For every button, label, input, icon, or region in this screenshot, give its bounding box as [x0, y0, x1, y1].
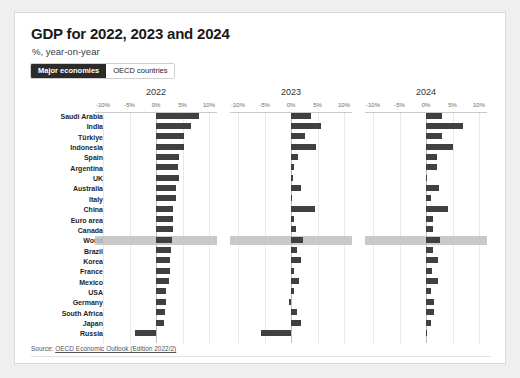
- bar[interactable]: [291, 144, 316, 150]
- footer-divider: [31, 356, 491, 357]
- bar[interactable]: [291, 164, 294, 170]
- bar[interactable]: [156, 257, 170, 263]
- x-tick-label: 10%: [473, 102, 485, 108]
- bar[interactable]: [289, 299, 291, 305]
- panel-title-2023: 2023: [281, 87, 301, 97]
- category-label: UK: [15, 175, 103, 183]
- bar[interactable]: [426, 226, 433, 232]
- bar[interactable]: [291, 113, 311, 119]
- category-label: Euro area: [15, 217, 103, 225]
- bar[interactable]: [426, 278, 438, 284]
- bar[interactable]: [291, 278, 299, 284]
- x-tick-label: 0%: [152, 102, 161, 108]
- category-label: Mexico: [15, 279, 103, 287]
- bar[interactable]: [426, 164, 437, 170]
- bar[interactable]: [426, 133, 442, 139]
- gridline: [344, 113, 345, 343]
- gridline: [238, 113, 239, 343]
- bar[interactable]: [426, 237, 440, 243]
- bar[interactable]: [426, 216, 433, 222]
- bar[interactable]: [156, 320, 164, 326]
- bar[interactable]: [156, 113, 199, 119]
- bar[interactable]: [426, 299, 434, 305]
- bar[interactable]: [156, 247, 171, 253]
- source-link[interactable]: OECD Economic Outlook (Edition 2022/2): [55, 345, 176, 352]
- bar[interactable]: [156, 299, 166, 305]
- bar[interactable]: [426, 113, 442, 119]
- bar[interactable]: [156, 288, 166, 294]
- bar[interactable]: [156, 195, 176, 201]
- bar[interactable]: [156, 206, 173, 212]
- bar[interactable]: [291, 175, 293, 181]
- bar[interactable]: [291, 133, 305, 139]
- bar[interactable]: [426, 175, 427, 181]
- bar[interactable]: [156, 185, 176, 191]
- gridline: [318, 113, 319, 343]
- x-tick-label: 0%: [287, 102, 296, 108]
- bar[interactable]: [291, 154, 298, 160]
- bar[interactable]: [291, 268, 294, 274]
- bar[interactable]: [426, 195, 431, 201]
- x-tick-label: 5%: [448, 102, 457, 108]
- category-label: Korea: [15, 258, 103, 266]
- bar[interactable]: [291, 237, 303, 243]
- bar[interactable]: [156, 133, 184, 139]
- x-tick-label: -10%: [96, 102, 110, 108]
- bar[interactable]: [291, 123, 321, 129]
- bar[interactable]: [426, 288, 431, 294]
- bar[interactable]: [156, 278, 169, 284]
- category-label: South Africa: [15, 310, 103, 318]
- x-tick-label: -10%: [231, 102, 245, 108]
- bar[interactable]: [291, 185, 301, 191]
- bar[interactable]: [426, 247, 433, 253]
- category-label: China: [15, 206, 103, 214]
- x-tick-label: -5%: [394, 102, 405, 108]
- bar[interactable]: [426, 123, 463, 129]
- bar[interactable]: [261, 330, 291, 336]
- bar[interactable]: [426, 206, 448, 212]
- bar[interactable]: [291, 195, 292, 201]
- bar[interactable]: [156, 164, 178, 170]
- category-label: France: [15, 268, 103, 276]
- bar[interactable]: [156, 237, 172, 243]
- bar[interactable]: [426, 320, 431, 326]
- panel-title-2022: 2022: [146, 87, 166, 97]
- bar[interactable]: [156, 216, 173, 222]
- bar[interactable]: [156, 268, 170, 274]
- bar[interactable]: [291, 216, 294, 222]
- bar[interactable]: [291, 247, 297, 253]
- bar[interactable]: [426, 330, 427, 336]
- category-label: Saudi Arabia: [15, 113, 103, 121]
- bar[interactable]: [426, 144, 453, 150]
- bar[interactable]: [291, 288, 294, 294]
- bar[interactable]: [426, 268, 432, 274]
- bar[interactable]: [426, 309, 434, 315]
- gridline: [130, 113, 131, 343]
- bar[interactable]: [156, 309, 165, 315]
- category-label: Türkiye: [15, 134, 103, 142]
- gridline: [400, 113, 401, 343]
- gridline: [103, 113, 104, 343]
- bar[interactable]: [156, 226, 173, 232]
- bar[interactable]: [291, 226, 296, 232]
- category-label: Germany: [15, 299, 103, 307]
- bar[interactable]: [156, 123, 191, 129]
- bar[interactable]: [291, 320, 301, 326]
- x-tick-label: 5%: [313, 102, 322, 108]
- bar[interactable]: [156, 154, 179, 160]
- bar[interactable]: [426, 185, 439, 191]
- x-tick-label: 5%: [178, 102, 187, 108]
- bar[interactable]: [135, 330, 156, 336]
- bar[interactable]: [291, 206, 315, 212]
- bar[interactable]: [156, 144, 184, 150]
- bar[interactable]: [426, 154, 437, 160]
- gridline: [209, 113, 210, 343]
- bar[interactable]: [291, 257, 301, 263]
- gridline: [479, 113, 480, 343]
- bar[interactable]: [156, 175, 179, 181]
- category-label: Japan: [15, 320, 103, 328]
- bar[interactable]: [291, 309, 297, 315]
- category-label: USA: [15, 289, 103, 297]
- chart-plot-area: Saudi ArabiaIndiaTürkiyeIndonesiaSpainAr…: [15, 13, 507, 365]
- bar[interactable]: [426, 257, 438, 263]
